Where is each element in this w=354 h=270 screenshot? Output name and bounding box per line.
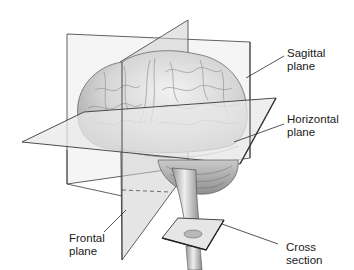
label-sagittal-plane: Sagittal plane — [287, 47, 325, 73]
label-cross-section: Cross section — [286, 241, 322, 267]
brain-planes-diagram: Sagittal plane Horizontal plane Frontal … — [0, 0, 354, 270]
horizontal-plane — [22, 98, 276, 164]
cross-section-plane — [162, 218, 224, 250]
sagittal-leader — [246, 56, 284, 78]
cross-leader — [222, 224, 278, 244]
label-frontal-plane: Frontal plane — [69, 232, 105, 258]
label-horizontal-plane: Horizontal plane — [287, 113, 339, 139]
